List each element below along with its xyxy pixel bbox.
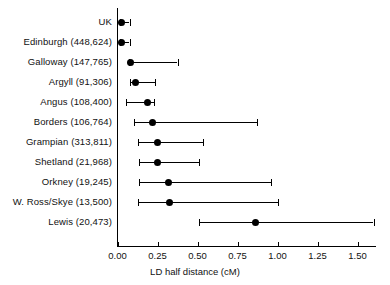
forest-plot: UKEdinburgh (448,624)Galloway (147,765)A… bbox=[0, 0, 390, 285]
interval-cap-high bbox=[374, 219, 375, 226]
y-axis-line bbox=[117, 8, 118, 246]
interval-cap-high bbox=[278, 199, 279, 206]
x-axis-tick bbox=[318, 242, 319, 246]
interval-cap-low bbox=[130, 79, 131, 86]
category-label: Galloway (147,765) bbox=[28, 57, 112, 67]
x-axis-tick-label: 1.50 bbox=[338, 250, 378, 261]
data-point-marker bbox=[154, 139, 161, 146]
interval-cap-low bbox=[199, 219, 200, 226]
category-label: Lewis (20,473) bbox=[48, 217, 112, 227]
confidence-interval-line bbox=[138, 202, 278, 203]
interval-cap-low bbox=[138, 139, 139, 146]
category-label: Shetland (21,968) bbox=[35, 157, 112, 167]
interval-cap-low bbox=[126, 99, 127, 106]
confidence-interval-line bbox=[139, 162, 199, 163]
x-axis-tick-label: 0.00 bbox=[98, 250, 138, 261]
x-axis-title: LD half distance (cM) bbox=[0, 266, 390, 277]
x-axis-line bbox=[117, 246, 376, 247]
x-axis-tick-label: 0.50 bbox=[178, 250, 218, 261]
data-point-marker bbox=[118, 39, 125, 46]
data-point-marker bbox=[166, 199, 173, 206]
category-label: Angus (108,400) bbox=[40, 97, 112, 107]
data-point-marker bbox=[127, 59, 134, 66]
interval-cap-high bbox=[199, 159, 200, 166]
interval-cap-high bbox=[271, 179, 272, 186]
confidence-interval-line bbox=[138, 142, 204, 143]
confidence-interval-line bbox=[199, 222, 373, 223]
category-label: Argyll (91,306) bbox=[49, 77, 112, 87]
x-axis-tick bbox=[358, 242, 359, 246]
data-point-marker bbox=[165, 179, 172, 186]
x-axis-tick bbox=[158, 242, 159, 246]
confidence-interval-line bbox=[129, 62, 178, 63]
interval-cap-low bbox=[139, 179, 140, 186]
x-axis-tick bbox=[118, 242, 119, 246]
data-point-marker bbox=[118, 19, 125, 26]
category-label: Borders (106,764) bbox=[34, 117, 112, 127]
category-label: Orkney (19,245) bbox=[42, 177, 112, 187]
data-point-marker bbox=[252, 219, 259, 226]
data-point-marker bbox=[154, 159, 161, 166]
data-point-marker bbox=[149, 119, 156, 126]
interval-cap-high bbox=[154, 99, 155, 106]
interval-cap-high bbox=[155, 79, 156, 86]
interval-cap-high bbox=[178, 59, 179, 66]
x-axis-tick-label: 1.00 bbox=[258, 250, 298, 261]
interval-cap-low bbox=[134, 119, 135, 126]
confidence-interval-line bbox=[139, 182, 271, 183]
interval-cap-low bbox=[138, 199, 139, 206]
data-point-marker bbox=[144, 99, 151, 106]
x-axis-tick-label: 0.25 bbox=[138, 250, 178, 261]
x-axis-tick-label: 1.25 bbox=[298, 250, 338, 261]
x-axis-tick bbox=[278, 242, 279, 246]
interval-cap-low bbox=[139, 159, 140, 166]
category-label: UK bbox=[99, 17, 112, 27]
data-point-marker bbox=[132, 79, 139, 86]
category-label: Grampian (313,811) bbox=[26, 137, 112, 147]
category-label: W. Ross/Skye (13,500) bbox=[13, 197, 112, 207]
category-label: Edinburgh (448,624) bbox=[23, 37, 112, 47]
x-axis-tick bbox=[198, 242, 199, 246]
interval-cap-high bbox=[130, 19, 131, 26]
x-axis-tick-label: 0.75 bbox=[218, 250, 258, 261]
interval-cap-high bbox=[257, 119, 258, 126]
interval-cap-high bbox=[203, 139, 204, 146]
x-axis-tick bbox=[238, 242, 239, 246]
interval-cap-high bbox=[130, 39, 131, 46]
